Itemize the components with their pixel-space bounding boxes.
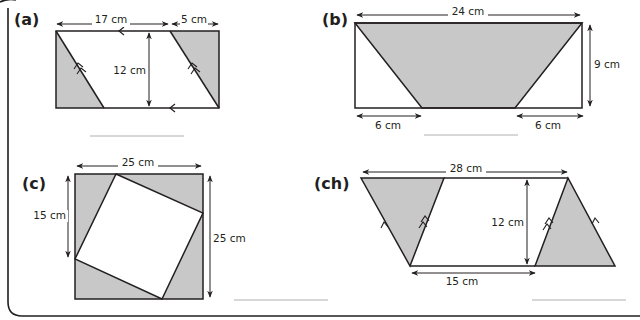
- dimension-label: 25 cm: [213, 232, 246, 244]
- worksheet-canvas: (a) 17 cm 5 cm 12 cm (b) 24 cm 9 cm 6 cm: [0, 0, 640, 320]
- dimension-label: 25 cm: [122, 156, 155, 168]
- dimension-label: 15 cm: [446, 275, 479, 287]
- problem-label-c: (c): [22, 174, 46, 193]
- problem-label-ch: (ch): [314, 174, 350, 193]
- problem-label-a: (a): [14, 10, 39, 29]
- dimension-label: 24 cm: [452, 5, 485, 17]
- problem-b: (b) 24 cm 9 cm 6 cm 6 cm: [322, 5, 620, 135]
- shaded-triangle-left: [361, 178, 444, 266]
- dimension-label: 15 cm: [33, 209, 66, 221]
- shaded-triangle-right: [535, 178, 615, 266]
- problem-a: (a) 17 cm 5 cm 12 cm: [14, 10, 219, 136]
- question-number-circle: [0, 0, 16, 2]
- shaded-trapezoid: [355, 23, 582, 108]
- dimension-label: 17 cm: [95, 13, 128, 25]
- dimension-label: 12 cm: [491, 216, 524, 228]
- problem-ch: (ch) 28 cm 12 cm 15 cm: [314, 162, 626, 300]
- dimension-label: 12 cm: [113, 64, 146, 76]
- dimension-label: 28 cm: [450, 162, 483, 174]
- problem-label-b: (b): [322, 10, 348, 29]
- dimension-label: 5 cm: [181, 13, 207, 25]
- dimension-label: 6 cm: [535, 119, 561, 131]
- dimension-label: 6 cm: [375, 119, 401, 131]
- parallel-mark-icon: [592, 218, 599, 224]
- problem-c: (c) 25 cm 15 cm 25 cm: [22, 156, 328, 300]
- dimension-label: 9 cm: [594, 58, 620, 70]
